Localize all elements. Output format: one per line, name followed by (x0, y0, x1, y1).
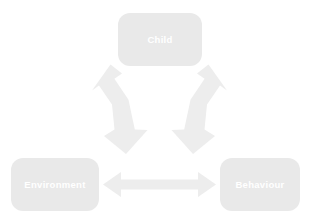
diagram-canvas: Child Environment Behaviour (0, 0, 319, 220)
node-behaviour-label: Behaviour (235, 180, 284, 190)
arrow-environment-child (92, 65, 148, 155)
node-environment-label: Environment (24, 180, 85, 190)
node-environment[interactable]: Environment (11, 158, 99, 211)
node-child[interactable]: Child (118, 13, 202, 66)
arrow-environment-behaviour (103, 172, 216, 197)
arrow-child-behaviour (172, 65, 228, 155)
node-child-label: Child (147, 35, 172, 45)
node-behaviour[interactable]: Behaviour (220, 158, 300, 211)
